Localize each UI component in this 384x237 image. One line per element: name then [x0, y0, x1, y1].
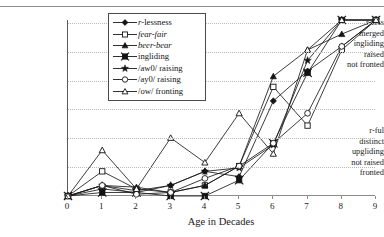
x-tick-mark: [307, 196, 308, 199]
data-point: [303, 69, 311, 77]
legend-label: /ay0/ raising: [138, 75, 181, 84]
data-point: [270, 73, 276, 79]
filled-diamond-icon: [112, 17, 138, 28]
data-point: [202, 176, 208, 182]
gridline: [68, 138, 375, 139]
x-tick-label: 1: [99, 202, 104, 211]
data-point: [235, 176, 243, 184]
filled-star-icon: [112, 63, 138, 74]
data-point: [339, 31, 345, 37]
legend-item-aw0-raising[interactable]: /aw0/ raising: [112, 63, 201, 74]
x-tick-mark: [101, 196, 102, 199]
legend-item-beer-bear[interactable]: beer-bear: [112, 40, 201, 51]
filled-x-square-icon: [112, 51, 138, 62]
x-tick-label: 7: [304, 202, 309, 211]
legend-label: /ow/ fronting: [138, 87, 183, 96]
x-tick-label: 3: [167, 202, 172, 211]
legend-item-ingliding[interactable]: ingliding: [112, 51, 201, 62]
filled-triangle-icon: [112, 40, 138, 51]
x-tick-mark: [272, 196, 273, 199]
x-tick-label: 0: [65, 202, 70, 211]
data-point: [270, 140, 276, 146]
x-tick-mark: [341, 196, 342, 199]
data-point: [100, 169, 105, 174]
legend: r-lessnessfear-fairbeer-bearingliding/aw…: [108, 13, 206, 101]
x-tick-label: 2: [133, 202, 138, 211]
legend-label: r-lessness: [138, 18, 172, 27]
x-tick-mark: [67, 196, 68, 199]
legend-item-r-lessness[interactable]: r-lessness: [112, 17, 201, 28]
data-point: [168, 190, 174, 196]
legend-label: ingliding: [138, 52, 169, 61]
x-tick-mark: [135, 196, 136, 199]
x-tick-label: 8: [339, 202, 344, 211]
gridline: [68, 109, 375, 110]
data-point: [236, 110, 242, 116]
x-axis-title: Age in Decades: [67, 216, 375, 227]
open-square-icon: [112, 29, 138, 40]
x-axis-ticks: 0123456789: [67, 196, 375, 212]
legend-item-fear-fair[interactable]: fear-fair: [112, 28, 201, 39]
x-tick-mark: [375, 196, 376, 199]
x-tick-label: 5: [236, 202, 241, 211]
x-tick-mark: [204, 196, 205, 199]
data-point: [271, 84, 276, 89]
x-tick-label: 6: [270, 202, 275, 211]
data-point: [202, 159, 208, 165]
cut-off-title: [150, 0, 384, 6]
data-point: [305, 123, 310, 128]
legend-item-ow-fronting[interactable]: /ow/ fronting: [112, 85, 201, 96]
legend-label: /aw0/ raising: [138, 64, 183, 73]
data-point: [339, 44, 345, 50]
x-tick-label: 9: [373, 202, 378, 211]
gridline: [68, 167, 375, 168]
data-point: [305, 110, 311, 116]
open-triangle-icon: [112, 86, 138, 97]
chart-figure: r-less merged ingliding raised not front…: [0, 0, 384, 237]
open-circle-icon: [112, 74, 138, 85]
legend-label: beer-bear: [138, 41, 172, 50]
legend-item-ay0-raising[interactable]: /ay0/ raising: [112, 74, 201, 85]
top-rule-divider: [0, 6, 384, 7]
x-tick-mark: [170, 196, 171, 199]
data-point: [99, 147, 105, 153]
data-point: [99, 183, 105, 189]
x-tick-label: 4: [202, 202, 207, 211]
legend-label: fear-fair: [138, 30, 167, 39]
x-tick-mark: [238, 196, 239, 199]
